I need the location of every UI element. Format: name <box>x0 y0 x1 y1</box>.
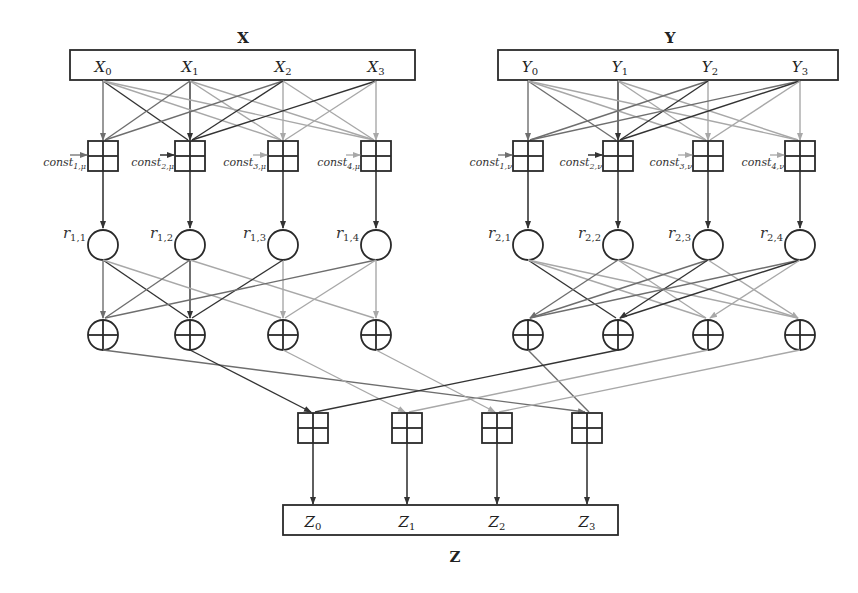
mult-to-register-edges <box>103 171 800 228</box>
adder-x-2 <box>175 320 205 350</box>
mult-box-x-1 <box>88 141 118 171</box>
x-register-to-adder-edges <box>103 260 376 318</box>
output-z-cell-1: Z1 <box>398 513 416 532</box>
mult-box-y-2 <box>603 141 633 171</box>
register-x-4 <box>361 230 391 260</box>
output-mult-to-z-edges <box>313 443 587 504</box>
adder-x-4 <box>361 320 391 350</box>
input-x-box <box>70 50 415 80</box>
register-x-3-label: r1,3 <box>243 224 266 243</box>
adder-y-4 <box>785 320 815 350</box>
input-x-cell-0: X0 <box>93 58 111 77</box>
y-register-row: r2,1 r2,2 r2,3 r2,4 <box>488 224 815 260</box>
const-y-4: const4,ν <box>742 156 785 171</box>
adder-to-output-mult-edges <box>103 350 800 412</box>
y-constants: const1,ν const2,ν const3,ν const4,ν <box>470 155 785 171</box>
adder-y-3 <box>693 320 723 350</box>
register-y-1-label: r2,1 <box>488 224 511 243</box>
output-z-group: Z0 Z1 Z2 Z3 Z <box>283 505 618 566</box>
y-register-to-adder-edges <box>528 260 800 318</box>
register-x-4-label: r1,4 <box>336 224 359 243</box>
y-to-mult-edges <box>528 81 800 140</box>
adder-y-1 <box>513 320 543 350</box>
input-y-title: Y <box>664 29 676 47</box>
register-x-1-label: r1,1 <box>63 224 86 243</box>
mult-box-x-4 <box>361 141 391 171</box>
adder-x-1 <box>88 320 118 350</box>
register-y-2-label: r2,2 <box>578 224 601 243</box>
mult-box-y-1 <box>513 141 543 171</box>
mult-box-y-3 <box>693 141 723 171</box>
const-x-4: const4,μ <box>317 156 360 171</box>
input-y-box <box>498 50 838 80</box>
register-y-1 <box>513 230 543 260</box>
input-x-title: X <box>237 29 249 47</box>
input-y-cell-0: Y0 <box>522 58 538 77</box>
input-x-cell-1: X1 <box>180 58 198 77</box>
register-x-1 <box>88 230 118 260</box>
output-z-box <box>283 505 618 535</box>
const-y-3: const3,ν <box>650 156 693 171</box>
x-register-row: r1,1 r1,2 r1,3 r1,4 <box>63 224 391 260</box>
register-y-2 <box>603 230 633 260</box>
output-mult-box-2 <box>482 413 512 443</box>
input-x-cell-3: X3 <box>366 58 384 77</box>
output-z-cell-3: Z3 <box>578 513 596 532</box>
diagram-canvas: X X0 X1 X2 X3 Y Y0 Y1 Y2 Y3 <box>0 0 858 593</box>
const-y-1: const1,ν <box>470 156 513 171</box>
mult-box-x-2 <box>175 141 205 171</box>
adder-y-2 <box>603 320 633 350</box>
input-x-cell-2: X2 <box>273 58 291 77</box>
const-x-2: const2,μ <box>131 156 174 171</box>
output-mult-row <box>298 413 602 443</box>
input-y-cell-2: Y2 <box>702 58 718 77</box>
input-x-group: X X0 X1 X2 X3 <box>70 29 415 80</box>
output-z-cell-0: Z0 <box>304 513 322 532</box>
register-x-2-label: r1,2 <box>150 224 173 243</box>
register-y-4-label: r2,4 <box>760 224 783 243</box>
input-y-group: Y Y0 Y1 Y2 Y3 <box>498 29 838 80</box>
adder-row <box>88 320 815 350</box>
const-y-2: const2,ν <box>560 156 603 171</box>
x-constants: const1,μ const2,μ const3,μ const4,μ <box>43 155 360 171</box>
mult-box-y-4 <box>785 141 815 171</box>
output-mult-box-3 <box>572 413 602 443</box>
register-x-2 <box>175 230 205 260</box>
const-x-3: const3,μ <box>223 156 266 171</box>
mult-box-x-3 <box>268 141 298 171</box>
output-z-title: Z <box>450 548 461 566</box>
const-x-1: const1,μ <box>43 156 86 171</box>
output-mult-box-1 <box>392 413 422 443</box>
register-y-4 <box>785 230 815 260</box>
register-x-3 <box>268 230 298 260</box>
adder-x-3 <box>268 320 298 350</box>
input-y-cell-3: Y3 <box>792 58 808 77</box>
output-z-cell-2: Z2 <box>488 513 506 532</box>
input-y-cell-1: Y1 <box>612 58 628 77</box>
register-y-3 <box>693 230 723 260</box>
x-to-mult-edges <box>103 81 376 140</box>
output-mult-box-0 <box>298 413 328 443</box>
register-y-3-label: r2,3 <box>668 224 691 243</box>
